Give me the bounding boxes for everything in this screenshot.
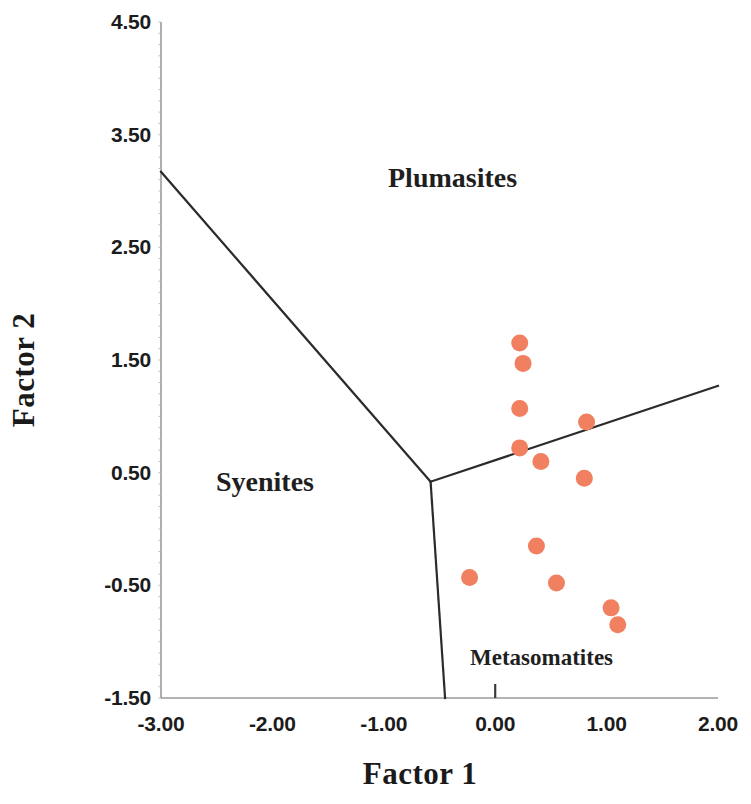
region-label-plumasites: Plumasites bbox=[388, 162, 517, 194]
data-point-marker bbox=[528, 537, 545, 554]
data-point-marker bbox=[461, 569, 478, 586]
region-label-syenites: Syenites bbox=[216, 466, 314, 498]
x-axis-title: Factor 1 bbox=[270, 756, 570, 792]
x-tick-label: 1.00 bbox=[552, 712, 662, 736]
data-point-marker bbox=[515, 355, 532, 372]
data-point-marker bbox=[603, 599, 620, 616]
y-axis-title: Factor 2 bbox=[6, 305, 42, 435]
data-point-marker bbox=[576, 470, 593, 487]
data-point-marker bbox=[578, 413, 595, 430]
plot-area bbox=[0, 0, 751, 804]
y-tick-label: -1.50 bbox=[61, 686, 151, 710]
data-point-markers bbox=[461, 335, 626, 634]
x-tick-label: -3.00 bbox=[106, 712, 216, 736]
y-tick-label: -0.50 bbox=[61, 573, 151, 597]
data-point-marker bbox=[532, 453, 549, 470]
x-tick-label: 2.00 bbox=[663, 712, 751, 736]
data-point-marker bbox=[511, 400, 528, 417]
region-label-metasomatites: Metasomatites bbox=[470, 645, 613, 671]
axis-lines bbox=[161, 22, 718, 698]
data-point-marker bbox=[548, 575, 565, 592]
x-tick-label: -1.00 bbox=[329, 712, 439, 736]
y-tick-label: 0.50 bbox=[61, 461, 151, 485]
y-tick-label: 3.50 bbox=[61, 123, 151, 147]
axis-tick-marks bbox=[159, 22, 496, 698]
syenites-plumasites-boundary bbox=[161, 172, 431, 482]
discriminant-scatter-chart: Factor 2 Factor 1 4.503.502.501.500.50-0… bbox=[0, 0, 751, 804]
y-tick-label: 2.50 bbox=[61, 235, 151, 259]
x-tick-label: 0.00 bbox=[440, 712, 550, 736]
data-point-marker bbox=[511, 335, 528, 352]
y-tick-label: 1.50 bbox=[61, 348, 151, 372]
plumasites-metasomatites-boundary bbox=[431, 386, 718, 482]
data-point-marker bbox=[511, 439, 528, 456]
syenites-metasomatites-boundary bbox=[431, 482, 445, 698]
y-tick-label: 4.50 bbox=[61, 10, 151, 34]
data-point-marker bbox=[609, 616, 626, 633]
classification-boundary-lines bbox=[161, 172, 718, 698]
x-tick-label: -2.00 bbox=[217, 712, 327, 736]
